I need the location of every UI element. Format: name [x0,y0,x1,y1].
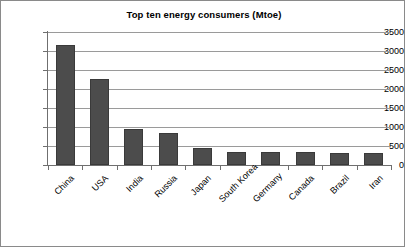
x-tick-label: China [45,173,76,204]
bar[interactable] [90,79,109,165]
chart-title: Top ten energy consumers (Mtoe) [1,9,406,20]
bar[interactable] [261,152,280,165]
x-tick-mark [220,165,221,170]
x-tick-label: Brazil [320,173,351,204]
x-tick-label: India [114,173,145,204]
x-tick-mark [151,165,152,170]
bar[interactable] [364,153,383,165]
bar[interactable] [124,129,143,165]
bar[interactable] [296,152,315,165]
bar[interactable] [227,152,246,165]
bar[interactable] [159,133,178,165]
bar[interactable] [193,148,212,165]
x-tick-label: Germany [251,173,282,204]
chart-frame: Top ten energy consumers (Mtoe) 3500 300… [0,0,405,247]
x-tick-mark [117,165,118,170]
gridline [48,32,391,33]
x-tick-mark [254,165,255,170]
x-tick-label: Japan [182,173,213,204]
plot-area [48,32,391,165]
x-tick-mark [288,165,289,170]
gridline [48,70,391,71]
x-tick-label: USA [79,173,110,204]
x-tick-mark [322,165,323,170]
x-tick-mark [48,165,49,170]
gridline [48,51,391,52]
bar[interactable] [330,153,349,165]
x-tick-mark [357,165,358,170]
x-tick-mark [82,165,83,170]
x-tick-mark [391,165,392,170]
x-tick-label: Iran [354,173,385,204]
x-tick-label: Canada [285,173,316,204]
x-tick-mark [185,165,186,170]
bar[interactable] [56,45,75,165]
x-tick-label: South Korea [217,173,248,204]
x-tick-label: Russia [148,173,179,204]
